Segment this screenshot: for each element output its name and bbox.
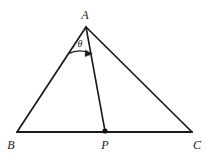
vertex-label-p: P — [101, 139, 108, 151]
vertex-label-c: C — [193, 139, 201, 151]
angle-label-theta: θ — [78, 39, 83, 49]
geometry-figure: A B P C θ — [0, 0, 207, 160]
vertex-label-b: B — [7, 139, 14, 151]
triangle-diagram-canvas — [0, 0, 207, 160]
segment-ab — [17, 27, 86, 132]
point-marker-p — [102, 128, 107, 133]
vertex-label-a: A — [81, 9, 88, 21]
